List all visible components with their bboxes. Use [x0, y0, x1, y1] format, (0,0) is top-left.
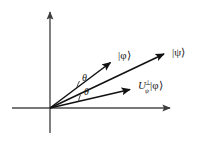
angle-label-lower: θ: [84, 86, 89, 97]
figure-background: [0, 0, 202, 143]
angle-label-upper: θ: [82, 72, 87, 83]
label-phi: |φ⟩: [118, 49, 131, 61]
quantum-state-vector-diagram: |φ⟩ |ψ⟩ U ⊥ ψ |φ⟩ θ θ: [0, 0, 202, 143]
label-psi: |ψ⟩: [172, 46, 185, 58]
label-u-operand: |φ⟩: [150, 79, 163, 91]
